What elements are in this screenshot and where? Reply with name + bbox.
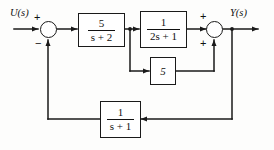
block-5-over-s-plus-2[interactable]: 5 s + 2	[78, 13, 125, 47]
numerator: 1	[147, 17, 180, 30]
block-gain-5[interactable]: 5	[150, 57, 176, 85]
fraction-1-over-s-plus-1: 1 s + 1	[107, 107, 134, 132]
summing-junction-1[interactable]	[40, 21, 57, 38]
block-diagram: U(s) Y(s) + − 5 s + 2 1 2s + 1 + + 5 1 s…	[0, 0, 274, 150]
denominator: s + 2	[88, 31, 115, 43]
summing-junction-2[interactable]	[206, 21, 223, 38]
numerator: 1	[107, 107, 134, 120]
sum2-plus-sign-top: +	[200, 11, 206, 22]
sum2-plus-sign-bottom: +	[200, 38, 206, 49]
block-1-over-2s-plus-1[interactable]: 1 2s + 1	[140, 11, 187, 48]
denominator: 2s + 1	[147, 30, 180, 42]
sum1-minus-sign: −	[35, 38, 41, 49]
fraction-1-over-2s-plus-1: 1 2s + 1	[147, 17, 180, 42]
sum1-plus-sign: +	[34, 12, 40, 23]
fraction-5-over-s-plus-2: 5 s + 2	[88, 18, 115, 43]
junction-dot-output	[230, 27, 234, 31]
denominator: s + 1	[107, 120, 134, 132]
numerator: 5	[88, 18, 115, 31]
input-label: U(s)	[10, 7, 29, 18]
output-label: Y(s)	[230, 7, 247, 18]
junction-dot-forward	[128, 27, 132, 31]
gain-value: 5	[160, 65, 166, 77]
block-1-over-s-plus-1[interactable]: 1 s + 1	[100, 101, 141, 138]
